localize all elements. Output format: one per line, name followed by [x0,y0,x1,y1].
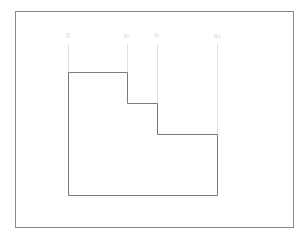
marker-label-a1: a₁ [121,32,133,40]
staircase-shape [69,73,218,196]
marker-label-a2: a₂ [211,32,223,40]
marker-label-0: 0 [62,32,74,40]
marker-lines [69,44,218,134]
marker-label-h: h [151,32,163,40]
